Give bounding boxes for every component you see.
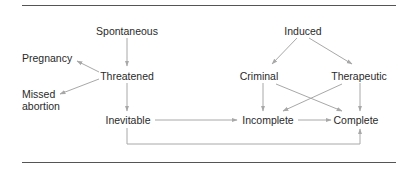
edge-induced-criminal [272,38,297,64]
node-incomplete: Incomplete [242,114,293,126]
node-induced: Induced [284,25,321,37]
node-missed-abortion-line2: abortion [22,100,60,112]
node-inevitable: Inevitable [106,114,151,126]
node-pregnancy: Pregnancy [22,52,72,64]
node-spontaneous: Spontaneous [96,25,158,37]
node-complete: Complete [334,114,379,126]
node-therapeutic: Therapeutic [331,70,386,82]
node-missed-abortion-line1: Missed [22,88,60,100]
edge-threatened-pregnancy [77,61,99,72]
node-threatened: Threatened [100,70,154,82]
node-missed-abortion: Missed abortion [22,88,60,112]
edge-induced-therapeutic [309,38,352,64]
diagram-edges [0,0,414,172]
node-criminal: Criminal [240,70,279,82]
edge-threatened-missed [60,79,99,94]
edge-inevitable-complete [127,128,360,144]
